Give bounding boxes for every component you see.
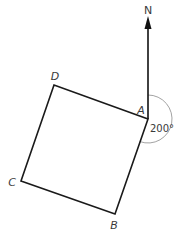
vertex-label-a: A (136, 104, 145, 117)
vertex-label-d: D (51, 70, 59, 83)
vertex-label-c: C (8, 176, 16, 189)
bearing-angle-arc (140, 95, 172, 143)
square-abcd (21, 85, 148, 214)
bearing-diagram: N A B C D 200° (0, 0, 183, 245)
vertex-label-b: B (110, 219, 118, 232)
bearing-angle-label: 200° (150, 123, 174, 134)
north-arrowhead-icon (145, 16, 152, 29)
north-label: N (144, 4, 152, 17)
